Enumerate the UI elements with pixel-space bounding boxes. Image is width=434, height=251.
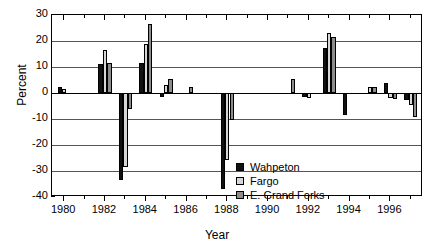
bar-chart: Percent 3020100-10-20-30-40 198019821984… xyxy=(0,0,434,251)
y-tick-label: -10 xyxy=(8,112,48,123)
x-tick-minor xyxy=(328,196,329,199)
x-tick-top-major xyxy=(389,15,390,20)
gridline xyxy=(52,145,421,146)
x-tick-top-major xyxy=(104,15,105,20)
x-tick-major xyxy=(349,196,350,201)
x-tick-label: 1986 xyxy=(163,203,209,215)
x-tick-top-major xyxy=(349,15,350,20)
x-tick-top-minor xyxy=(410,15,411,18)
bar xyxy=(189,87,193,93)
x-tick-major xyxy=(226,196,227,201)
x-tick-label: 1982 xyxy=(81,203,127,215)
x-tick-top-minor xyxy=(369,15,370,18)
bar xyxy=(343,93,347,115)
x-tick-label: 1994 xyxy=(326,203,372,215)
legend-item-fargo: Fargo xyxy=(236,174,325,187)
x-tick-top-major xyxy=(63,15,64,20)
x-tick-top-major xyxy=(186,15,187,20)
x-tick-major xyxy=(186,196,187,201)
bar xyxy=(372,87,376,93)
x-tick-top-major xyxy=(267,15,268,20)
x-tick-top-major xyxy=(226,15,227,20)
legend: Wahpeton Fargo E. Grand Forks xyxy=(236,160,325,202)
bar xyxy=(168,79,172,93)
x-axis-title: Year xyxy=(0,228,434,242)
x-tick-minor xyxy=(369,196,370,199)
zero-line xyxy=(52,93,421,94)
y-tick-label: -20 xyxy=(8,138,48,149)
gridline xyxy=(52,41,421,42)
legend-item-wahpeton: Wahpeton xyxy=(236,160,325,173)
x-tick-minor xyxy=(124,196,125,199)
bar xyxy=(413,93,417,117)
x-tick-top-minor xyxy=(287,15,288,18)
bar xyxy=(384,83,388,93)
light-gray-square-icon xyxy=(236,177,244,185)
medium-gray-square-icon xyxy=(236,191,244,199)
x-tick-label: 1988 xyxy=(203,203,249,215)
x-tick-top-minor xyxy=(165,15,166,18)
bar xyxy=(160,93,164,97)
legend-item-e-grand-forks: E. Grand Forks xyxy=(236,188,325,201)
bar xyxy=(107,63,111,93)
x-tick-top-minor xyxy=(206,15,207,18)
black-square-icon xyxy=(236,163,244,171)
y-tick-label: -40 xyxy=(8,190,48,201)
legend-label: Wahpeton xyxy=(250,161,300,173)
bar xyxy=(393,93,397,99)
x-tick-major xyxy=(63,196,64,201)
x-tick-label: 1996 xyxy=(366,203,412,215)
y-tick-label: 10 xyxy=(8,60,48,71)
x-tick-label: 1980 xyxy=(40,203,86,215)
legend-label: E. Grand Forks xyxy=(250,189,325,201)
x-tick-top-minor xyxy=(124,15,125,18)
x-tick-major xyxy=(389,196,390,201)
bar xyxy=(230,93,234,120)
x-tick-minor xyxy=(165,196,166,199)
y-tick-label: 30 xyxy=(8,8,48,19)
y-tick-label: 20 xyxy=(8,34,48,45)
x-tick-minor xyxy=(410,196,411,199)
bar xyxy=(307,93,311,98)
x-tick-minor xyxy=(84,196,85,199)
x-tick-major xyxy=(145,196,146,201)
x-tick-top-minor xyxy=(84,15,85,18)
bar xyxy=(291,79,295,93)
x-tick-label: 1984 xyxy=(122,203,168,215)
x-tick-label: 1990 xyxy=(244,203,290,215)
legend-label: Fargo xyxy=(250,175,279,187)
gridline xyxy=(52,119,421,120)
y-tick-label: -30 xyxy=(8,164,48,175)
bar xyxy=(148,24,152,93)
x-tick-major xyxy=(104,196,105,201)
y-tick-mark xyxy=(51,196,55,197)
x-tick-top-major xyxy=(308,15,309,20)
x-tick-top-major xyxy=(145,15,146,20)
bar xyxy=(62,89,66,93)
x-tick-label: 1992 xyxy=(285,203,331,215)
x-tick-minor xyxy=(206,196,207,199)
x-tick-top-minor xyxy=(328,15,329,18)
bar xyxy=(128,93,132,109)
y-tick-label: 0 xyxy=(8,86,48,97)
bar xyxy=(331,37,335,93)
x-tick-top-minor xyxy=(247,15,248,18)
